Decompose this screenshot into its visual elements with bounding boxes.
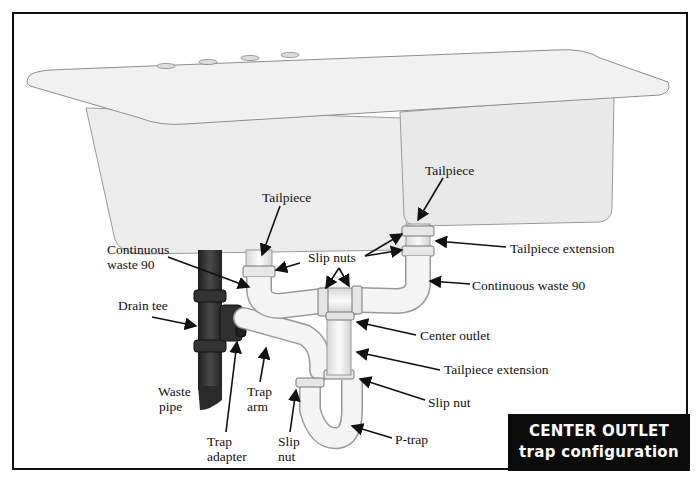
label-waste-pipe-1: Waste — [158, 384, 191, 399]
trap-arm — [244, 318, 320, 370]
label-trap-adapter-1: Trap — [207, 434, 232, 449]
sink-basin-right — [400, 96, 614, 226]
label-p-trap: P-trap — [395, 432, 428, 447]
label-tailpiece-left: Tailpiece — [262, 190, 311, 205]
label-center-outlet: Center outlet — [420, 328, 490, 343]
label-tailpiece-extension-mid: Tailpiece extension — [444, 362, 548, 377]
label-drain-tee: Drain tee — [118, 298, 168, 313]
label-tailpiece-right: Tailpiece — [425, 163, 474, 178]
label-continuous-waste-right: Continuous waste 90 — [472, 278, 585, 293]
label-tailpiece-extension-top: Tailpiece extension — [510, 241, 614, 256]
label-slip-nut-left-2: nut — [278, 449, 295, 464]
sink-basin-left — [86, 108, 407, 254]
diagram-title-line1: CENTER OUTLET — [508, 422, 690, 440]
center-outlet-tee — [318, 286, 362, 320]
label-trap-arm-1: Trap — [247, 384, 272, 399]
label-continuous-waste-left-2: waste 90 — [107, 257, 155, 272]
label-slip-nut-left-1: Slip — [278, 434, 300, 449]
label-trap-arm-2: arm — [247, 399, 268, 414]
diagram-title-box: CENTER OUTLET trap configuration — [508, 414, 690, 471]
label-slip-nuts: Slip nuts — [308, 250, 356, 265]
waste-pipe — [194, 250, 246, 410]
label-continuous-waste-left-1: Continuous — [107, 242, 169, 257]
diagram-title-line2: trap configuration — [508, 443, 690, 461]
p-trap — [296, 370, 354, 438]
label-trap-adapter-2: adapter — [207, 449, 247, 464]
label-waste-pipe-2: pipe — [159, 399, 182, 414]
label-slip-nut-right: Slip nut — [428, 395, 470, 410]
